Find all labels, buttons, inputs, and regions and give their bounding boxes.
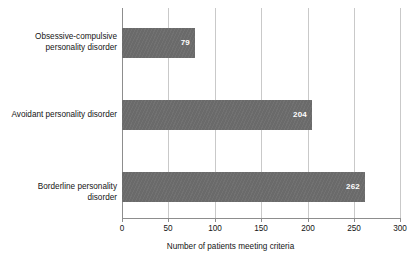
x-axis-title-wrapper: Number of patients meeting criteria [0,242,409,251]
x-tick-label-300: 300 [393,224,407,233]
bar-chart: 79 204 262 Obsessive-compulsive personal… [0,0,409,262]
x-tick-200 [308,218,309,222]
x-tick-label-250: 250 [347,224,361,233]
category-label-obsessive-compulsive-personality-disorder: Obsessive-compulsive personality disorde… [6,32,117,53]
bar-value-label: 262 [346,183,360,191]
category-label-avoidant-personality-disorder: Avoidant personality disorder [6,110,117,121]
x-tick-100 [215,218,216,222]
plot-area: 79 204 262 [122,8,401,218]
x-tick-150 [261,218,262,222]
x-tick-label-150: 150 [254,224,268,233]
x-tick-300 [400,218,401,222]
x-tick-label-50: 50 [163,224,172,233]
x-tick-0 [122,218,123,222]
category-label-borderline-personality-disorder: Borderline personality disorder [6,182,117,203]
bar-avoidant-personality-disorder: 204 [122,100,312,130]
bar-value-label: 204 [293,111,307,119]
x-tick-label-100: 100 [208,224,222,233]
x-tick-label-0: 0 [120,224,125,233]
bar-borderline-personality-disorder: 262 [122,172,365,202]
x-tick-label-200: 200 [301,224,315,233]
bar-value-label: 79 [181,39,190,47]
x-tick-250 [354,218,355,222]
bar-obsessive-compulsive-personality-disorder: 79 [122,28,195,58]
x-axis-title: Number of patients meeting criteria [115,242,294,251]
gridline-300 [400,8,401,218]
x-tick-50 [168,218,169,222]
